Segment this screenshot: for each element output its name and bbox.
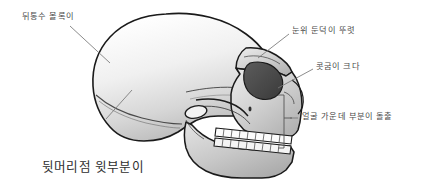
label-occiput-bulge: 뒤통수 볼록이 [22,11,74,22]
skull-diagram-figure: 뒤통수 볼록이 눈위 둔덕이 뚜렷 콧굼이 크다 얼굴 가운데 부분이 돌출 뒷… [0,0,424,183]
label-nasal-large: 콧굼이 크다 [316,61,360,72]
infraorbital-foramen [249,107,252,112]
label-parietal-flat-line-1: 뒷머리점 윗부분이 [42,158,144,177]
label-brow-ridge: 눈위 둔덕이 뚜렷 [292,25,355,36]
label-parietal-flat: 뒷머리점 윗부분이 오목함 [42,120,144,183]
label-midface-projection: 얼굴 가운데 부분이 돌출 [302,111,392,122]
